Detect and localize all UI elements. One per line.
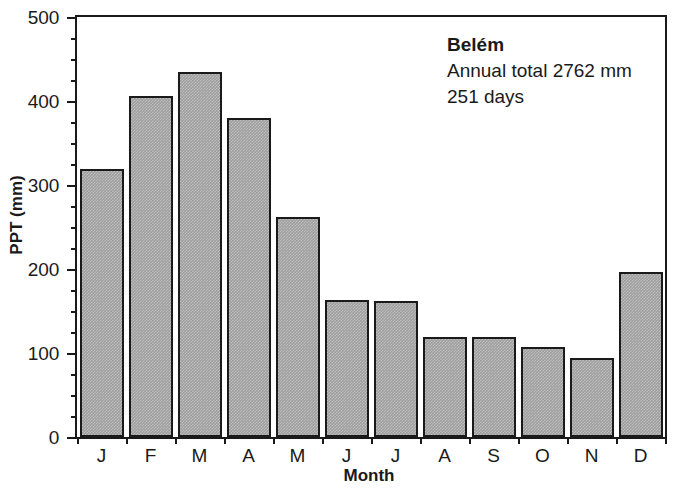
y-tick-minor bbox=[71, 227, 77, 229]
x-tick-label: A bbox=[425, 446, 465, 465]
x-tick bbox=[616, 437, 618, 444]
precipitation-bar-chart: PPT (mm) 0100200300400500 JFMAMJJASOND M… bbox=[0, 0, 678, 493]
x-tick bbox=[175, 437, 177, 444]
y-tick-label: 300 bbox=[0, 176, 59, 195]
x-tick bbox=[371, 437, 373, 444]
x-tick-label: O bbox=[523, 446, 563, 465]
annotation-site-name: Belém bbox=[447, 32, 632, 58]
y-tick-minor bbox=[71, 59, 77, 61]
y-tick-minor bbox=[71, 38, 77, 40]
bar-july bbox=[374, 301, 418, 437]
bar-june bbox=[325, 300, 369, 437]
y-tick-minor bbox=[71, 122, 77, 124]
y-tick-minor bbox=[71, 416, 77, 418]
y-tick-minor bbox=[71, 290, 77, 292]
x-tick-label: D bbox=[621, 446, 661, 465]
bar-may bbox=[276, 217, 320, 437]
y-tick-label: 200 bbox=[0, 260, 59, 279]
x-tick bbox=[322, 437, 324, 444]
x-tick bbox=[665, 437, 667, 444]
x-tick bbox=[469, 437, 471, 444]
y-tick-minor bbox=[71, 374, 77, 376]
y-tick-minor bbox=[71, 332, 77, 334]
y-tick-minor bbox=[71, 248, 77, 250]
x-tick-label: M bbox=[180, 446, 220, 465]
x-tick bbox=[273, 437, 275, 444]
x-tick bbox=[224, 437, 226, 444]
y-tick-major bbox=[67, 185, 77, 187]
x-axis-title: Month bbox=[75, 466, 663, 486]
y-tick-minor bbox=[71, 164, 77, 166]
y-tick-major bbox=[67, 269, 77, 271]
x-tick bbox=[518, 437, 520, 444]
y-tick-label: 0 bbox=[0, 428, 59, 447]
bar-september bbox=[472, 337, 516, 437]
x-tick-label: M bbox=[278, 446, 318, 465]
y-tick-major bbox=[67, 353, 77, 355]
bar-january bbox=[80, 169, 124, 437]
bar-february bbox=[129, 96, 173, 437]
bar-december bbox=[619, 272, 663, 437]
y-tick-label: 500 bbox=[0, 8, 59, 27]
y-tick-major bbox=[67, 17, 77, 19]
bar-october bbox=[521, 347, 565, 437]
x-tick-label: J bbox=[376, 446, 416, 465]
y-tick-minor bbox=[71, 206, 77, 208]
x-tick-label: F bbox=[131, 446, 171, 465]
y-tick-label: 400 bbox=[0, 92, 59, 111]
x-tick-label: J bbox=[82, 446, 122, 465]
y-tick-minor bbox=[71, 395, 77, 397]
y-tick-minor bbox=[71, 143, 77, 145]
x-tick bbox=[420, 437, 422, 444]
x-tick-label: J bbox=[327, 446, 367, 465]
x-tick bbox=[126, 437, 128, 444]
x-tick-label: N bbox=[572, 446, 612, 465]
bar-april bbox=[227, 118, 271, 437]
y-tick-minor bbox=[71, 80, 77, 82]
x-tick-label: A bbox=[229, 446, 269, 465]
annotation-rain-days: 251 days bbox=[447, 84, 632, 110]
y-tick-major bbox=[67, 437, 77, 439]
chart-annotation: Belém Annual total 2762 mm 251 days bbox=[447, 32, 632, 110]
x-tick bbox=[77, 437, 79, 444]
y-tick-minor bbox=[71, 311, 77, 313]
bar-august bbox=[423, 337, 467, 437]
bar-november bbox=[570, 358, 614, 437]
x-tick bbox=[567, 437, 569, 444]
y-tick-major bbox=[67, 101, 77, 103]
bar-march bbox=[178, 72, 222, 437]
y-tick-label: 100 bbox=[0, 344, 59, 363]
annotation-annual-total: Annual total 2762 mm bbox=[447, 58, 632, 84]
x-tick-label: S bbox=[474, 446, 514, 465]
